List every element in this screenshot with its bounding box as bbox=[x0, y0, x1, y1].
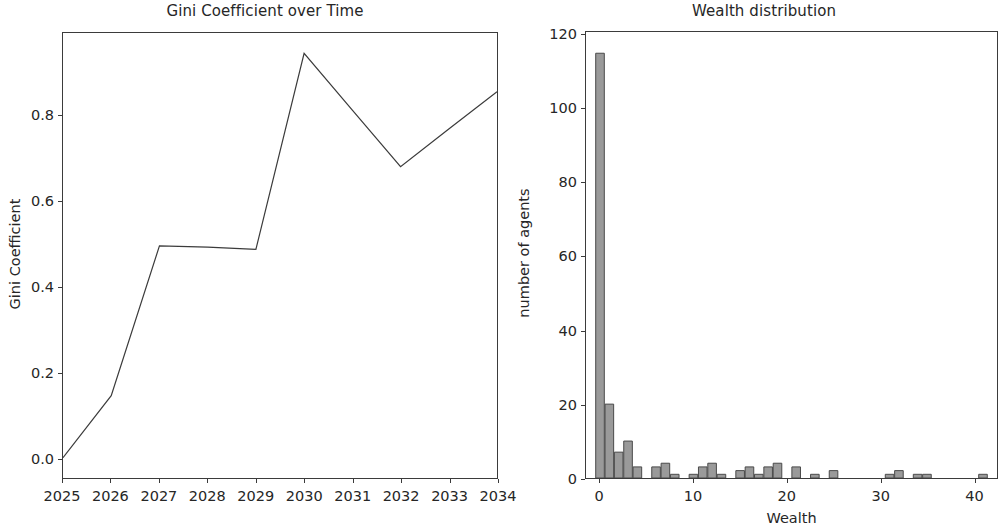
y-tick-label-wealth: 20 bbox=[539, 397, 577, 413]
x-tick-label-wealth: 0 bbox=[594, 488, 603, 504]
y-tick-mark-wealth bbox=[581, 405, 585, 406]
y-axis-label-gini: Gini Coefficient bbox=[6, 30, 22, 477]
x-tick-mark-gini bbox=[256, 479, 257, 483]
subplot-gini-coefficient: Gini Coefficient over Time 0.00.20.40.60… bbox=[0, 0, 510, 520]
x-tick-mark-wealth bbox=[975, 479, 976, 483]
x-tick-label-gini: 2032 bbox=[383, 488, 420, 504]
x-tick-mark-gini bbox=[62, 479, 63, 483]
x-tick-mark-wealth bbox=[787, 479, 788, 483]
plot-area-wealth bbox=[585, 31, 998, 479]
x-tick-mark-gini bbox=[304, 479, 305, 483]
x-tick-mark-gini bbox=[498, 479, 499, 483]
x-tick-label-wealth: 40 bbox=[965, 488, 983, 504]
y-tick-mark-gini bbox=[58, 115, 62, 116]
x-tick-label-gini: 2029 bbox=[237, 488, 274, 504]
x-tick-label-gini: 2031 bbox=[334, 488, 371, 504]
gini-line-series bbox=[63, 33, 497, 478]
y-tick-mark-gini bbox=[58, 459, 62, 460]
x-axis-label-wealth: Wealth bbox=[766, 510, 816, 526]
plot-area-gini bbox=[62, 32, 498, 479]
y-tick-label-wealth: 80 bbox=[539, 174, 577, 190]
wealth-histogram-bars bbox=[586, 32, 997, 478]
x-tick-mark-gini bbox=[450, 479, 451, 483]
x-tick-label-wealth: 30 bbox=[871, 488, 889, 504]
x-tick-mark-gini bbox=[353, 479, 354, 483]
x-tick-mark-wealth bbox=[599, 479, 600, 483]
y-tick-mark-wealth bbox=[581, 331, 585, 332]
x-tick-label-wealth: 10 bbox=[684, 488, 702, 504]
x-tick-label-gini: 2025 bbox=[44, 488, 81, 504]
x-tick-label-gini: 2028 bbox=[189, 488, 226, 504]
y-tick-mark-gini bbox=[58, 373, 62, 374]
y-tick-mark-gini bbox=[58, 201, 62, 202]
y-tick-mark-gini bbox=[58, 287, 62, 288]
x-tick-label-gini: 2026 bbox=[92, 488, 129, 504]
y-tick-label-wealth: 0 bbox=[539, 471, 577, 487]
y-tick-mark-wealth bbox=[581, 479, 585, 480]
y-tick-mark-wealth bbox=[581, 182, 585, 183]
x-tick-mark-gini bbox=[207, 479, 208, 483]
x-tick-mark-gini bbox=[110, 479, 111, 483]
subplot-wealth-distribution: Wealth distribution 02040608010012001020… bbox=[510, 0, 1006, 520]
y-tick-mark-wealth bbox=[581, 34, 585, 35]
y-tick-mark-wealth bbox=[581, 108, 585, 109]
chart-title-wealth: Wealth distribution bbox=[510, 2, 1006, 20]
x-tick-mark-gini bbox=[401, 479, 402, 483]
x-tick-mark-gini bbox=[159, 479, 160, 483]
y-tick-mark-wealth bbox=[581, 256, 585, 257]
y-tick-label-wealth: 40 bbox=[539, 323, 577, 339]
y-axis-label-wealth: number of agents bbox=[516, 29, 532, 477]
x-tick-mark-wealth bbox=[881, 479, 882, 483]
y-tick-label-wealth: 60 bbox=[539, 248, 577, 264]
x-tick-label-gini: 2027 bbox=[140, 488, 177, 504]
x-tick-label-gini: 2033 bbox=[431, 488, 468, 504]
y-tick-label-wealth: 100 bbox=[539, 100, 577, 116]
chart-title-gini: Gini Coefficient over Time bbox=[0, 2, 510, 20]
x-tick-label-gini: 2030 bbox=[286, 488, 323, 504]
y-tick-label-wealth: 120 bbox=[539, 26, 577, 42]
x-tick-label-wealth: 20 bbox=[778, 488, 796, 504]
x-tick-mark-wealth bbox=[693, 479, 694, 483]
